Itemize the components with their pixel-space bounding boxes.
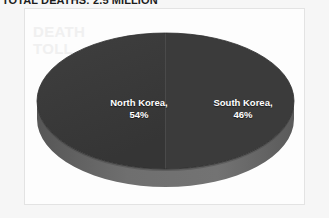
page-title: TOTAL DEATHS: 2.5 MILLION <box>2 0 158 6</box>
chart-title-strip: TOTAL DEATHS: 2.5 MILLION <box>0 0 329 7</box>
plot-area: DEATH TOLL <box>24 8 305 205</box>
pie-label-south-korea-value: 46% <box>201 109 285 121</box>
pie-label-south-korea-name: South Korea, <box>213 97 272 108</box>
pie-label-north-korea-name: North Korea, <box>110 97 168 108</box>
chart-canvas: TOTAL DEATHS: 2.5 MILLION DEATH TOLL <box>0 0 329 218</box>
pie-label-north-korea-value: 54% <box>97 109 181 121</box>
pie-label-north-korea: North Korea, 54% <box>97 97 181 121</box>
pie-label-south-korea: South Korea, 46% <box>201 97 285 121</box>
